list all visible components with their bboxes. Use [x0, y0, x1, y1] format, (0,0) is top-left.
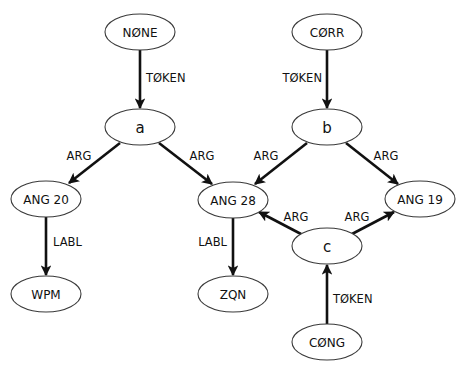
edge-label: TØKEN	[145, 71, 186, 85]
node-label: ANG 19	[397, 193, 443, 207]
edge-cong-to-c: TØKEN	[327, 265, 373, 324]
edge-label: LABL	[198, 235, 227, 249]
edge-label: TØKEN	[282, 71, 323, 85]
nodes-layer: NØNECØRRabANG 20ANG 28ANG 19cWPMZQNCØNG	[11, 14, 455, 360]
node-label: a	[135, 119, 144, 137]
edge-label: ARG	[345, 210, 370, 224]
node-ang28: ANG 28	[198, 182, 268, 218]
edge-b-to-ang19: ARG	[346, 143, 398, 184]
edge-label: ARG	[284, 210, 309, 224]
node-ang19: ANG 19	[385, 181, 455, 217]
edge-b-to-ang28: ARG	[254, 143, 307, 184]
node-zqn: ZQN	[198, 276, 268, 312]
edge-label: ARG	[374, 149, 399, 163]
node-label: ANG 28	[210, 194, 256, 208]
node-label: NØNE	[123, 26, 158, 40]
node-ang20: ANG 20	[11, 181, 81, 217]
node-label: ANG 20	[23, 193, 69, 207]
edge-label: ARG	[190, 149, 215, 163]
edge-a-to-ang28: ARG	[159, 143, 214, 184]
edge-label: ARG	[254, 149, 279, 163]
node-label: CØRR	[310, 26, 345, 40]
node-wpm: WPM	[11, 276, 81, 312]
node-cong: CØNG	[292, 324, 362, 360]
node-label: ZQN	[220, 288, 247, 302]
edge-none-to-a: TØKEN	[140, 50, 186, 108]
node-c: c	[292, 228, 362, 264]
node-corr: CØRR	[292, 14, 362, 50]
node-b: b	[292, 109, 362, 145]
node-label: CØNG	[309, 336, 345, 350]
node-none: NØNE	[105, 14, 175, 50]
edge-label: TØKEN	[332, 292, 373, 306]
node-label: WPM	[31, 288, 60, 302]
edge-corr-to-b: TØKEN	[282, 50, 328, 108]
node-label: c	[323, 238, 331, 256]
edge-label: ARG	[67, 149, 92, 163]
edge-c-to-ang28: ARG	[259, 210, 308, 234]
edge-ang28-to-zqn: LABL	[198, 218, 233, 275]
edge-a-to-ang20: ARG	[67, 143, 120, 183]
edge-c-to-ang19: ARG	[345, 210, 394, 234]
edge-ang20-to-wpm: LABL	[46, 217, 82, 275]
graph-diagram: TØKENTØKENARGARGARGARGLABLLABLARGARGTØKE…	[0, 0, 466, 372]
node-label: b	[322, 119, 332, 137]
node-a: a	[105, 109, 175, 145]
edge-label: LABL	[53, 235, 82, 249]
